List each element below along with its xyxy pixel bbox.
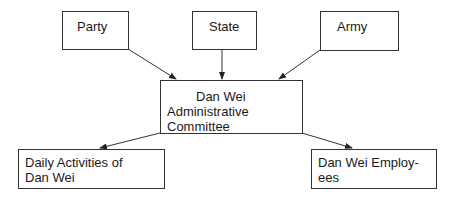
arrow-committee-to-employees bbox=[302, 133, 352, 148]
node-committee-line3: Committee bbox=[167, 119, 302, 134]
arrow-party-to-committee bbox=[128, 49, 176, 79]
node-party: Party bbox=[62, 11, 129, 50]
arrow-committee-to-daily bbox=[100, 133, 160, 148]
node-state-label: State bbox=[209, 19, 256, 34]
node-daily-line1: Daily Activities of bbox=[25, 155, 164, 170]
arrow-army-to-committee bbox=[279, 50, 320, 79]
node-state: State bbox=[192, 11, 257, 50]
org-diagram: Party State Army Dan Wei Administrative … bbox=[0, 0, 454, 203]
node-employees-line1: Dan Wei Employ- bbox=[318, 155, 436, 170]
node-committee-line2: Administrative bbox=[167, 104, 302, 119]
node-employees: Dan Wei Employ- ees bbox=[311, 149, 437, 189]
node-committee-line1: Dan Wei bbox=[167, 89, 302, 104]
node-daily-activities: Daily Activities of Dan Wei bbox=[18, 149, 165, 189]
node-army: Army bbox=[320, 11, 399, 51]
node-daily-line2: Dan Wei bbox=[25, 170, 164, 185]
node-army-label: Army bbox=[337, 19, 398, 34]
node-administrative-committee: Dan Wei Administrative Committee bbox=[160, 80, 303, 134]
node-party-label: Party bbox=[77, 19, 128, 34]
node-employees-line2: ees bbox=[318, 170, 436, 185]
